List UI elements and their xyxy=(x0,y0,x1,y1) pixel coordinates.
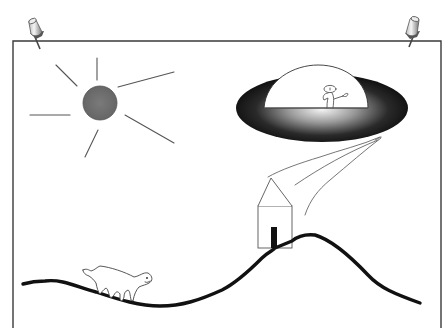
drawing-canvas xyxy=(0,0,444,328)
sun-icon xyxy=(30,58,174,157)
ufo-icon xyxy=(236,65,408,142)
hill xyxy=(23,235,420,306)
cat-icon xyxy=(83,266,152,301)
pushpin-right-icon xyxy=(405,16,420,47)
house-icon xyxy=(258,178,292,248)
pushpin-left-icon xyxy=(28,17,44,49)
